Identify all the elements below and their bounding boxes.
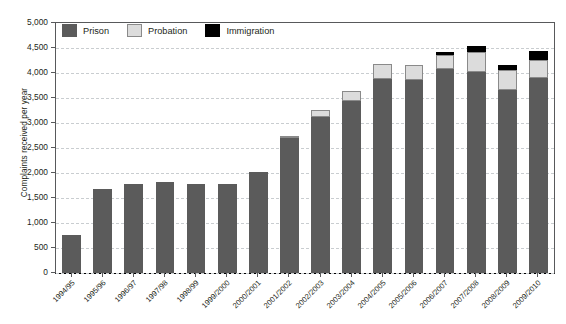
bar-segment-prison[interactable] [156, 182, 175, 274]
x-tick-mark [320, 272, 321, 277]
bar-group[interactable] [93, 189, 112, 273]
x-tick-mark [226, 272, 227, 277]
y-tick-label: 3,500 [2, 93, 48, 101]
y-tick-mark [51, 47, 56, 48]
y-tick-mark [51, 247, 56, 248]
bar-segment-immigration[interactable] [436, 52, 455, 55]
y-tick-mark [51, 272, 56, 273]
bar-segment-probation[interactable] [436, 55, 455, 70]
y-tick-label: 5,000 [2, 18, 48, 26]
bar-group[interactable] [311, 110, 330, 273]
x-tick-mark [444, 272, 445, 277]
y-tick-label: 2,000 [2, 168, 48, 176]
legend-swatch-immigration-icon [205, 24, 220, 37]
legend-item-immigration: Immigration [205, 24, 274, 37]
x-tick-mark [475, 272, 476, 277]
bar-group[interactable] [187, 184, 206, 273]
y-tick-mark [51, 72, 56, 73]
legend-swatch-probation-icon [127, 24, 142, 37]
x-tick-mark [288, 272, 289, 277]
bar-segment-prison[interactable] [467, 72, 486, 274]
y-tick-mark [51, 22, 56, 23]
y-tick-label: 0 [2, 268, 48, 276]
x-tick-mark [133, 272, 134, 277]
bar-group[interactable] [467, 46, 486, 273]
x-tick-mark [164, 272, 165, 277]
legend-label-probation: Probation [148, 26, 187, 36]
bar-segment-probation[interactable] [405, 65, 424, 80]
bar-group[interactable] [529, 51, 548, 273]
bar-segment-probation[interactable] [280, 136, 299, 138]
bar-segment-prison[interactable] [373, 79, 392, 273]
gridline [56, 273, 554, 274]
y-tick-label: 500 [2, 243, 48, 251]
bar-segment-immigration[interactable] [467, 46, 486, 52]
x-tick-mark [382, 272, 383, 277]
x-tick-mark [195, 272, 196, 277]
y-tick-label: 2,500 [2, 143, 48, 151]
y-tick-label: 1,000 [2, 218, 48, 226]
y-tick-mark [51, 197, 56, 198]
bar-group[interactable] [405, 65, 424, 273]
bar-segment-probation[interactable] [467, 52, 486, 72]
legend: Prison Probation Immigration [62, 24, 292, 37]
x-tick-mark [506, 272, 507, 277]
bar-segment-probation[interactable] [529, 60, 548, 79]
y-tick-mark [51, 172, 56, 173]
y-tick-mark [51, 97, 56, 98]
bar-group[interactable] [218, 184, 237, 273]
legend-item-probation: Probation [127, 24, 187, 37]
bar-segment-prison[interactable] [249, 172, 268, 274]
bar-group[interactable] [342, 91, 361, 274]
bar-segment-prison[interactable] [280, 138, 299, 273]
bar-group[interactable] [436, 52, 455, 274]
bar-group[interactable] [280, 136, 299, 273]
bar-segment-prison[interactable] [187, 184, 206, 273]
y-tick-mark [51, 222, 56, 223]
bars-layer [56, 23, 554, 273]
legend-label-prison: Prison [83, 26, 109, 36]
legend-item-prison: Prison [62, 24, 109, 37]
x-tick-mark [537, 272, 538, 277]
bar-segment-prison[interactable] [124, 184, 143, 274]
plot-area [55, 22, 555, 274]
bar-group[interactable] [124, 184, 143, 274]
bar-segment-probation[interactable] [498, 70, 517, 90]
x-tick-mark [102, 272, 103, 277]
bar-segment-prison[interactable] [62, 235, 81, 274]
bar-segment-immigration[interactable] [529, 51, 548, 60]
y-tick-mark [51, 147, 56, 148]
bar-segment-immigration[interactable] [498, 65, 517, 70]
bar-segment-prison[interactable] [405, 80, 424, 273]
x-tick-mark [413, 272, 414, 277]
bar-segment-prison[interactable] [498, 90, 517, 274]
x-tick-mark [351, 272, 352, 277]
bar-group[interactable] [249, 172, 268, 274]
bar-group[interactable] [156, 182, 175, 274]
bar-segment-prison[interactable] [311, 117, 330, 274]
bar-segment-probation[interactable] [342, 91, 361, 101]
y-tick-mark [51, 122, 56, 123]
bar-segment-prison[interactable] [93, 189, 112, 273]
bar-group[interactable] [62, 235, 81, 274]
y-tick-label: 4,500 [2, 43, 48, 51]
bar-segment-prison[interactable] [529, 78, 548, 273]
bar-segment-prison[interactable] [342, 101, 361, 274]
bar-segment-prison[interactable] [436, 69, 455, 273]
bar-segment-prison[interactable] [218, 184, 237, 273]
bar-group[interactable] [373, 64, 392, 273]
bar-segment-probation[interactable] [373, 64, 392, 79]
x-tick-mark [71, 272, 72, 277]
legend-swatch-prison-icon [62, 24, 77, 37]
y-tick-label: 3,000 [2, 118, 48, 126]
bar-group[interactable] [498, 65, 517, 274]
y-tick-label: 1,500 [2, 193, 48, 201]
bar-segment-probation[interactable] [311, 110, 330, 117]
x-tick-mark [257, 272, 258, 277]
y-tick-label: 4,000 [2, 68, 48, 76]
bar-chart: Complaints received per year 5,0004,5004… [0, 0, 566, 324]
legend-label-immigration: Immigration [226, 26, 274, 36]
